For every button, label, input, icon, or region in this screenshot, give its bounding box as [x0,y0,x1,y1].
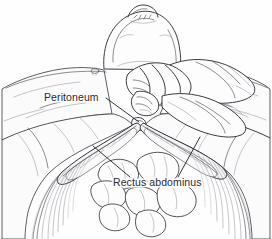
label-rectus-abdominus: Rectus abdominus [113,176,202,188]
surgical-illustration: Peritoneum Peritoneum Rectus abdominus R… [0,0,272,239]
illustration-canvas: Peritoneum Peritoneum Rectus abdominus R… [0,0,272,239]
label-peritoneum: Peritoneum [44,91,99,103]
